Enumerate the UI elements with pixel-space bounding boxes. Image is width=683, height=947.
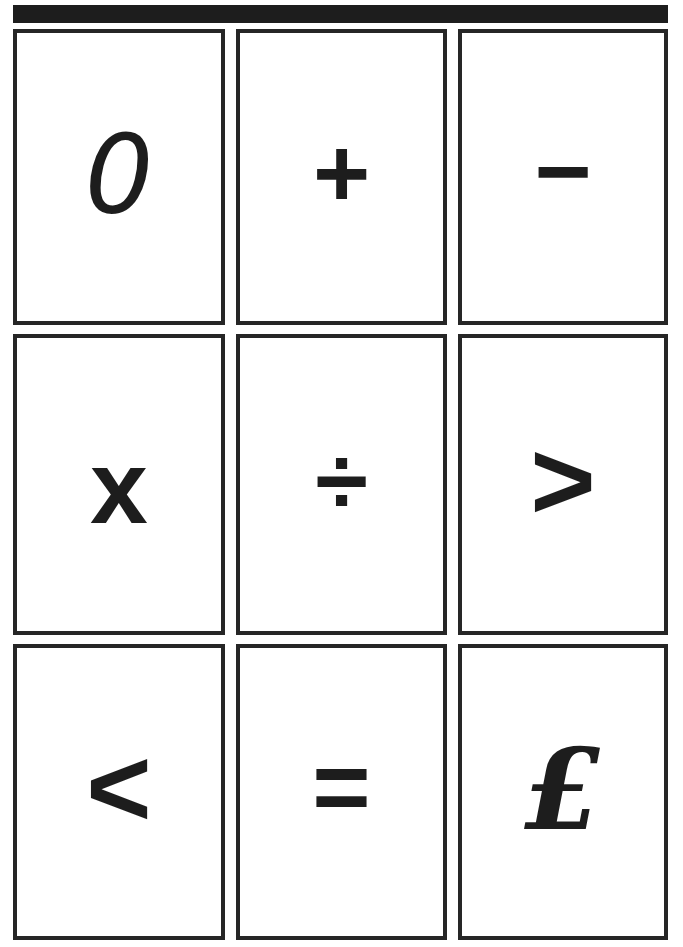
equals-icon: = xyxy=(312,736,370,836)
less-than-icon: < xyxy=(86,732,151,844)
symbol-card-equals[interactable]: = xyxy=(236,644,447,940)
pound-sterling-icon: £ xyxy=(524,734,602,846)
symbol-card-divide[interactable]: ÷ xyxy=(236,334,447,635)
symbol-card-plus[interactable]: + xyxy=(236,29,447,325)
symbol-card-less-than[interactable]: < xyxy=(13,644,225,940)
symbol-card-minus[interactable]: − xyxy=(458,29,668,325)
symbol-card-greater-than[interactable]: > xyxy=(458,334,668,635)
multiply-icon: x xyxy=(90,435,148,539)
plus-icon: + xyxy=(313,124,370,222)
digit-zero-icon: 0 xyxy=(85,121,154,229)
top-black-bar xyxy=(13,5,668,23)
symbol-card-pound[interactable]: £ xyxy=(458,644,668,940)
symbol-card-times[interactable]: x xyxy=(13,334,225,635)
symbol-card-sheet: 0 + − x ÷ > < = £ xyxy=(0,0,683,947)
divide-icon: ÷ xyxy=(315,433,368,529)
symbol-card-grid: 0 + − x ÷ > < = £ xyxy=(13,29,668,942)
minus-icon: − xyxy=(534,122,591,220)
symbol-card-zero[interactable]: 0 xyxy=(13,29,225,325)
greater-than-icon: > xyxy=(530,425,595,537)
